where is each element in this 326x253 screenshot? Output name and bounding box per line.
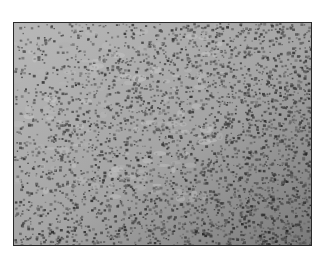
micrograph-image bbox=[13, 22, 312, 246]
cell-texture bbox=[14, 23, 311, 245]
